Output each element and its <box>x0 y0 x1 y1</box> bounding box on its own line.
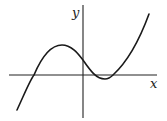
function-graph: y x <box>0 0 167 121</box>
y-axis-label: y <box>71 5 80 20</box>
x-axis-label: x <box>150 76 158 91</box>
